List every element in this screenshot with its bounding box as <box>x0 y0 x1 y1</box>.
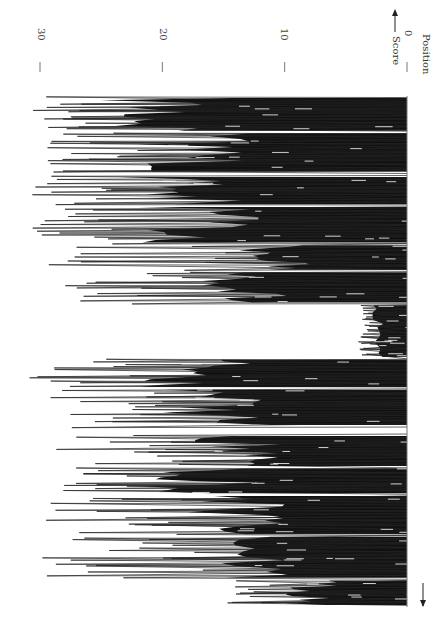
tick-label-0: 0 <box>403 30 414 36</box>
position-arrow-icon <box>420 583 426 607</box>
score-axis-label: Score <box>391 36 402 65</box>
score-arrow-icon <box>392 9 398 32</box>
tick-label-10: 10 <box>279 28 290 41</box>
score-profile-chart <box>0 0 442 637</box>
position-axis-label: Position <box>421 34 432 74</box>
score-profiles <box>30 97 420 605</box>
tick-label-20: 20 <box>158 28 169 41</box>
tick-label-30: 30 <box>36 28 47 41</box>
score-axis-ticks <box>40 62 407 72</box>
